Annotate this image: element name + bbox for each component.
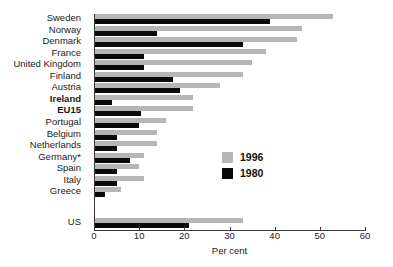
- category-label: Italy: [0, 175, 86, 185]
- category-label: United Kingdom: [0, 59, 86, 69]
- bar-1980: [94, 19, 270, 24]
- bar-group: [94, 187, 365, 197]
- bar-group: [94, 72, 365, 82]
- bar-group: [94, 95, 365, 105]
- bar-1980: [94, 169, 117, 174]
- plot-area: [94, 14, 365, 230]
- bar-1980: [94, 181, 117, 186]
- category-label: Denmark: [0, 36, 86, 46]
- category-label: Austria: [0, 82, 86, 92]
- category-label: Belgium: [0, 129, 86, 139]
- y-axis-line: [94, 14, 95, 230]
- bar-1980: [94, 54, 144, 59]
- bar-1980: [94, 100, 112, 105]
- bar-group: [94, 14, 365, 24]
- bar-1980: [94, 31, 157, 36]
- bar-1980: [94, 135, 117, 140]
- category-label: Germany*: [0, 152, 86, 162]
- x-tick-label: 40: [269, 231, 280, 241]
- bar-group: [94, 118, 365, 128]
- x-tick-label: 10: [134, 231, 145, 241]
- bar-1980: [94, 77, 173, 82]
- legend-item-older: 1980: [222, 168, 263, 179]
- chart-legend: 1996 1980: [222, 152, 263, 184]
- category-label: Ireland: [0, 94, 86, 104]
- legend-label-1996: 1996: [240, 152, 263, 163]
- bar-1980: [94, 111, 141, 116]
- bar-1980: [94, 42, 243, 47]
- legend-swatch-1996: [222, 152, 233, 163]
- bar-group: [94, 37, 365, 47]
- bar-1980: [94, 88, 180, 93]
- category-label: Portugal: [0, 117, 86, 127]
- x-tick-label: 20: [179, 231, 190, 241]
- category-label: France: [0, 48, 86, 58]
- x-axis-label: Per cent: [94, 245, 365, 256]
- category-label: Spain: [0, 163, 86, 173]
- bar-1980: [94, 65, 144, 70]
- category-label: Norway: [0, 25, 86, 35]
- x-tick-label: 50: [315, 231, 326, 241]
- bar-1980: [94, 223, 189, 228]
- bar-group: [94, 49, 365, 59]
- category-label: Netherlands: [0, 140, 86, 150]
- x-tick-label: 60: [360, 231, 371, 241]
- category-label: Sweden: [0, 13, 86, 23]
- bar-group: [94, 26, 365, 36]
- category-label: Finland: [0, 71, 86, 81]
- x-tick-label: 0: [91, 231, 96, 241]
- bar-1980: [94, 158, 130, 163]
- x-tick-label: 30: [224, 231, 235, 241]
- category-label: Greece: [0, 186, 86, 196]
- bar-group: [94, 106, 365, 116]
- bar-1980: [94, 123, 139, 128]
- bar-group: [94, 141, 365, 151]
- bar-1980: [94, 146, 117, 151]
- x-axis-ticks: 0102030405060: [94, 231, 365, 245]
- category-label: EU15: [0, 105, 86, 115]
- category-label: US: [0, 217, 86, 227]
- legend-swatch-1980: [222, 168, 233, 179]
- bar-chart: SwedenNorwayDenmarkFranceUnited KingdomF…: [0, 0, 393, 267]
- bar-group: [94, 83, 365, 93]
- bar-group: [94, 60, 365, 70]
- legend-label-1980: 1980: [240, 168, 263, 179]
- bar-1980: [94, 192, 105, 197]
- bar-group: [94, 130, 365, 140]
- legend-item-recent: 1996: [222, 152, 263, 163]
